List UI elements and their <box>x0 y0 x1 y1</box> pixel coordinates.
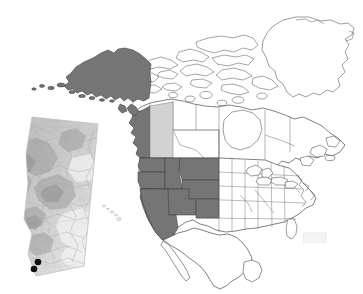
image-watermark <box>303 232 327 243</box>
study-site-marker <box>35 259 42 266</box>
state-washington <box>138 158 165 172</box>
study-site-marker <box>31 266 38 273</box>
region-alberta <box>150 102 173 158</box>
state-oregon <box>138 172 165 189</box>
state-colorado <box>196 199 219 218</box>
alberta-terrain-map <box>10 114 104 279</box>
study-area-map-figure <box>0 0 363 294</box>
state-montana <box>179 158 219 180</box>
alberta-terrain-surface <box>10 114 104 279</box>
alberta-inset-panel <box>10 114 104 279</box>
